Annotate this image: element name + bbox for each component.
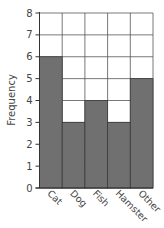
bar-dog [62, 122, 85, 188]
x-tick-label-cat: Cat [45, 188, 64, 207]
y-tick-label: 1 [26, 161, 32, 172]
x-tick-label-dog: Dog [68, 188, 89, 209]
y-tick-label: 3 [26, 117, 32, 128]
y-axis-ticks: 012345678 [26, 8, 39, 194]
x-tick-label-fish: Fish [91, 188, 112, 209]
bar-fish [85, 101, 108, 189]
y-tick-label: 2 [26, 139, 32, 150]
y-tick-label: 0 [26, 183, 32, 194]
y-tick-label: 4 [26, 95, 32, 106]
bar-other [130, 79, 153, 188]
y-tick-label: 5 [26, 73, 32, 84]
bar-chart: 012345678 CatDogFishHamsterOther Frequen… [0, 0, 164, 228]
bar-hamster [108, 122, 131, 188]
y-tick-label: 8 [26, 8, 32, 19]
bar-cat [40, 57, 63, 188]
y-tick-label: 7 [26, 29, 32, 40]
y-axis-title: Frequency [6, 74, 17, 126]
x-axis-labels: CatDogFishHamsterOther [45, 188, 163, 225]
y-tick-label: 6 [26, 51, 32, 62]
